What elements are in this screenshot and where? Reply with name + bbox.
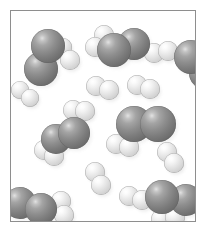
molecular-model-figure	[0, 0, 207, 235]
heavy-atom-sphere	[58, 117, 90, 149]
light-atom-sphere	[21, 89, 39, 107]
heavy-atom-sphere	[25, 193, 57, 222]
light-atom-sphere	[140, 79, 160, 99]
light-atom-sphere	[99, 80, 119, 100]
heavy-atom-sphere	[31, 29, 65, 63]
light-atom-sphere	[91, 175, 111, 195]
light-atom-sphere	[54, 205, 74, 222]
heavy-atom-sphere	[145, 180, 179, 214]
molecule-layer	[11, 11, 195, 221]
heavy-atom-sphere	[97, 33, 131, 67]
figure-frame	[10, 10, 196, 222]
heavy-atom-sphere	[174, 40, 196, 74]
light-atom-sphere	[164, 153, 184, 173]
heavy-atom-sphere	[140, 106, 176, 142]
